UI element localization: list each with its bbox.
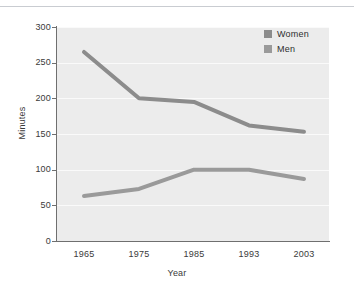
legend-swatch-icon	[264, 45, 272, 53]
x-tick-label-1993: 1993	[226, 249, 272, 259]
x-tick-label-1975: 1975	[116, 249, 162, 259]
y-tick-mark	[52, 170, 56, 171]
legend-label-men: Men	[277, 44, 295, 54]
x-axis-title: Year	[0, 268, 354, 278]
y-axis-title: Minutes	[17, 93, 27, 153]
x-tick-label-2003: 2003	[281, 249, 327, 259]
chart-figure: 300 250 200 150 100 50 0 1965 1975 1985 …	[0, 0, 354, 293]
y-tick-label-50: 50	[41, 201, 51, 210]
y-tick-mark	[52, 241, 56, 242]
y-tick-label-100: 100	[35, 165, 51, 174]
y-tick-label-0: 0	[46, 237, 51, 246]
x-tick-label-1985: 1985	[171, 249, 217, 259]
gridline	[57, 134, 329, 135]
legend-item-women[interactable]: Women	[264, 27, 309, 40]
gridline	[57, 98, 329, 99]
y-tick-mark	[52, 205, 56, 206]
y-tick-label-200: 200	[35, 94, 51, 103]
x-tick-label-1965: 1965	[61, 249, 107, 259]
gridline	[57, 205, 329, 206]
legend-label-women: Women	[277, 29, 309, 39]
y-tick-mark	[52, 63, 56, 64]
legend-swatch-icon	[264, 30, 272, 38]
y-tick-label-150: 150	[35, 130, 51, 139]
y-tick-label-300: 300	[35, 23, 51, 32]
y-tick-label-250: 250	[35, 58, 51, 67]
y-tick-mark	[52, 27, 56, 28]
gridline	[57, 170, 329, 171]
gridline	[57, 63, 329, 64]
y-tick-mark	[52, 98, 56, 99]
chart-legend: Women Men	[264, 27, 309, 57]
legend-item-men[interactable]: Men	[264, 42, 309, 55]
top-divider-rule	[0, 6, 354, 7]
y-tick-mark	[52, 134, 56, 135]
x-axis-line	[56, 241, 330, 242]
plot-area	[57, 27, 329, 241]
y-axis-line	[56, 26, 57, 242]
